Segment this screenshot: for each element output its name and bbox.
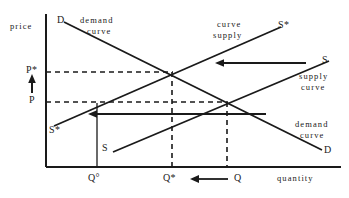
price-rise-arrow [28,74,36,93]
supply-shifted-label-top: S* [278,20,289,30]
quantity-zero-label: Q° [88,173,100,183]
supply-original-caption-line1: supply [299,72,328,81]
demand-curve-label-right: D [324,145,332,155]
demand-curve-caption-right-line2: curve [300,131,324,140]
price-label: P [29,95,35,105]
demand-curve-caption-top-line2: curve [87,27,111,36]
diagram-canvas: price quantity D demand curve curve supp… [0,0,349,198]
demand-curve-line [64,22,322,150]
supply-original-caption-line2: curve [301,83,325,92]
supply-original-label-bottom: S [102,143,108,153]
y-axis-label: price [10,22,33,31]
quantity-label: Q [234,173,242,183]
price-star-label: P* [26,65,37,75]
supply-shifted-caption-line2: supply [213,31,242,40]
supply-shift-arrow-lower [88,110,266,118]
supply-demand-chart [0,0,349,198]
demand-curve-caption-top-line1: demand [80,16,114,25]
quantity-star-label: Q* [163,173,176,183]
supply-shift-arrow-upper [215,59,306,67]
demand-curve-caption-right-line1: demand [295,120,329,129]
supply-shifted-label-bottom: S* [49,125,60,135]
x-axis-label: quantity [277,174,314,183]
supply-original-label-top: S [322,55,328,65]
supply-curve-shifted-line [54,27,281,126]
quantity-fall-arrow [190,175,228,183]
supply-shifted-caption-line1: curve [217,20,241,29]
demand-curve-label-left: D [57,15,65,25]
